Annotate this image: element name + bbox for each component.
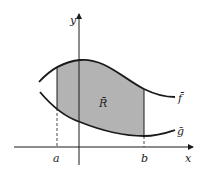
region-diagram: y x a b R̄ f̄ ḡ <box>0 0 201 173</box>
curve-g-label: ḡ <box>177 125 184 138</box>
x-axis-label: x <box>185 152 192 165</box>
y-axis-label: y <box>69 14 77 27</box>
curve-f-label: f̄ <box>177 92 185 105</box>
bound-a-label: a <box>53 152 60 165</box>
region-label: R̄ <box>98 97 107 110</box>
bound-b-label: b <box>141 152 148 165</box>
